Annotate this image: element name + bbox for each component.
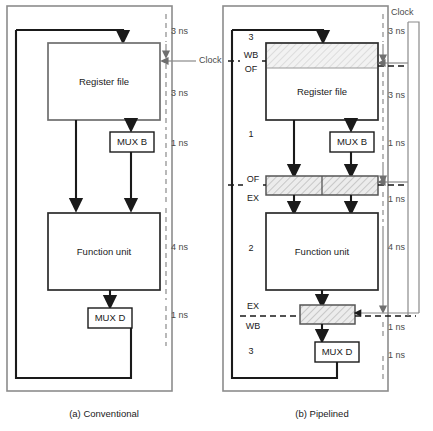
feedback-arrow-to-register-file-a <box>16 30 123 38</box>
stage-boundary-0-above: WB <box>244 50 259 60</box>
feedback-arrow-to-register-file-b <box>232 30 323 38</box>
stage-boundary-0-below: OF <box>245 64 258 74</box>
timing-label-a-0: 3 ns <box>171 26 189 36</box>
panel-a-caption: (a) Conventional <box>69 408 139 419</box>
mux-b-label-b: MUX B <box>337 136 367 147</box>
mux-d-label-b: MUX D <box>322 346 353 357</box>
timing-label-b-0: 3 ns <box>388 26 406 36</box>
function-unit-label-b: Function unit <box>295 246 350 257</box>
timing-label-b-5: 1 ns <box>388 322 406 332</box>
timing-label-b-1: 3 ns <box>388 90 406 100</box>
register-file-label-a: Register file <box>79 76 129 87</box>
panel-conventional: Register file MUX B Function unit MUX D … <box>7 6 222 419</box>
stage-boundary-1-above: OF <box>247 174 260 184</box>
register-file-label-b: Register file <box>297 86 347 97</box>
wb-of-latch-band <box>267 44 377 68</box>
timing-label-b-6: 1 ns <box>388 350 406 360</box>
clock-label-a: Clock <box>199 55 222 65</box>
timing-label-a-4: 1 ns <box>171 310 189 320</box>
stage-boundary-1-below: EX <box>247 193 259 203</box>
stage-boundary-2-below: WB <box>246 321 261 331</box>
timing-label-a-2: 1 ns <box>171 138 189 148</box>
panel-pipelined: Register file MUX B Function unit MUX D … <box>223 6 419 419</box>
timing-label-b-3: 1 ns <box>388 194 406 204</box>
mux-d-label-a: MUX D <box>95 312 126 323</box>
pipeline-comparison-figure: Register file MUX B Function unit MUX D … <box>0 0 433 431</box>
ex-wb-latch-bar <box>300 305 355 324</box>
function-unit-label-a: Function unit <box>77 246 132 257</box>
stage-number-2: 2 <box>248 243 253 253</box>
stage-number-0: 3 <box>248 32 253 42</box>
timing-label-a-3: 4 ns <box>171 242 189 252</box>
stage-number-1: 1 <box>248 129 253 139</box>
stage-boundary-2-above: EX <box>247 301 259 311</box>
timing-label-b-2: 1 ns <box>388 138 406 148</box>
mux-b-label-a: MUX B <box>117 136 147 147</box>
pipeline-diagram-svg: Register file MUX B Function unit MUX D … <box>0 0 433 431</box>
timing-label-a-1: 3 ns <box>171 88 189 98</box>
stage-number-3: 3 <box>248 346 253 356</box>
timing-label-b-4: 4 ns <box>388 242 406 252</box>
panel-b-caption: (b) Pipelined <box>295 408 348 419</box>
clock-branch-ex-wb-riser <box>408 22 419 313</box>
clock-label-b: Clock <box>391 7 414 17</box>
